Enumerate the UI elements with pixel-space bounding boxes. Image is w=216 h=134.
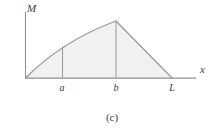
tick-label-b: b xyxy=(114,83,119,93)
figure-container: M x a b L (c) xyxy=(0,0,216,134)
tick-label-L: L xyxy=(169,83,175,93)
area-fill-under-curve xyxy=(26,21,173,78)
x-axis-label: x xyxy=(200,64,205,75)
tick-label-a: a xyxy=(60,83,65,93)
y-axis-label: M xyxy=(27,3,36,14)
figure-caption: (c) xyxy=(106,112,118,123)
